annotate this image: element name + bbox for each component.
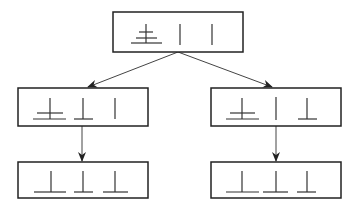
node-right-bottom (211, 162, 341, 198)
node-root (113, 12, 243, 52)
node-left-bottom (18, 162, 148, 198)
edge-root-to-left-mid (88, 52, 178, 87)
node-right-mid (211, 88, 341, 126)
edge-root-to-right-mid (178, 52, 272, 87)
tree-diagram (0, 0, 358, 207)
node-left-mid (18, 88, 148, 126)
